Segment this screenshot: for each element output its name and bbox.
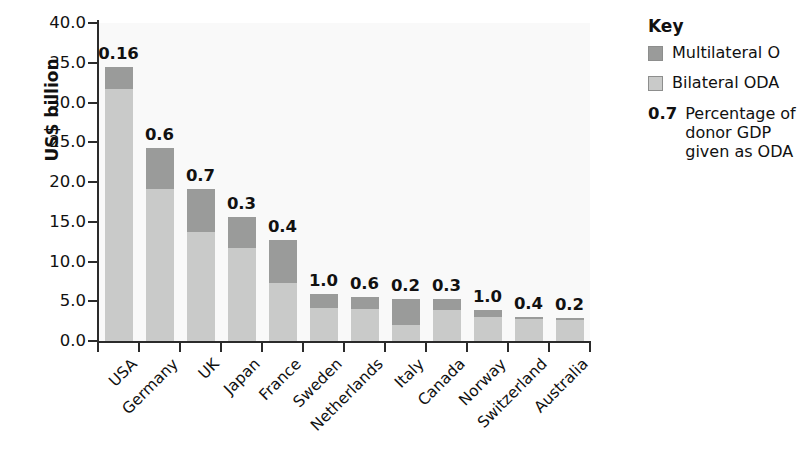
bar-segment-multilateral [105, 67, 133, 89]
y-axis-tick-label: 20.0 [2, 174, 86, 191]
bar-japan [228, 217, 256, 341]
legend-note-text: Percentage of donor GDP given as ODA [685, 104, 796, 162]
y-axis-tick-label: 30.0 [2, 95, 86, 112]
y-axis-tick-label: 35.0 [2, 55, 86, 72]
legend-title: Key [648, 18, 800, 35]
x-axis-label-text: Italy [391, 355, 428, 392]
legend-label-multilateral: Multilateral O [672, 44, 780, 63]
legend-note-line-2: donor GDP [685, 123, 771, 142]
y-axis-tick [88, 22, 98, 24]
x-axis-label-text: USA [105, 355, 140, 390]
bar-segment-bilateral [228, 248, 256, 341]
bar-segment-multilateral [351, 297, 379, 309]
y-axis-tick-label: 40.0 [2, 15, 86, 32]
y-axis-tick-label: 5.0 [2, 293, 86, 310]
y-axis-tick [88, 102, 98, 104]
y-axis-tick-label: 0.0 [2, 333, 86, 350]
legend-note-number: 0.7 [648, 104, 677, 123]
y-axis-tick-labels: 40.035.030.025.020.015.010.05.00.0 [0, 0, 86, 463]
legend-item-bilateral: Bilateral ODA [648, 74, 800, 93]
y-axis-tick-label: 10.0 [2, 254, 86, 271]
x-axis-tick [97, 343, 99, 352]
y-axis-tick [88, 181, 98, 183]
bar-value-label: 0.4 [251, 219, 315, 236]
y-axis-tick [88, 340, 98, 342]
y-axis-tick-label: 25.0 [2, 134, 86, 151]
legend-label-bilateral: Bilateral ODA [672, 74, 779, 93]
bar-usa [105, 67, 133, 341]
y-axis-tick [88, 221, 98, 223]
legend-item-multilateral: Multilateral O [648, 44, 800, 63]
chart-figure: US$ billion 40.035.030.025.020.015.010.0… [0, 0, 800, 463]
bar-value-label: 0.6 [128, 127, 192, 144]
y-axis-tick [88, 62, 98, 64]
x-axis-label-uk: UK [210, 340, 238, 368]
y-axis-tick [88, 300, 98, 302]
bar-value-label: 0.3 [210, 196, 274, 213]
y-axis-tick [88, 261, 98, 263]
legend: Key Multilateral O Bilateral ODA 0.7 Per… [648, 18, 800, 172]
y-axis-tick-label: 15.0 [2, 214, 86, 231]
x-axis-label-text: UK [194, 355, 222, 383]
legend-item-percentage-note: 0.7 Percentage of donor GDP given as ODA [648, 104, 800, 162]
bar-value-label: 0.7 [169, 168, 233, 185]
bar-segment-multilateral [310, 294, 338, 308]
legend-note-line-3: given as ODA [685, 142, 793, 161]
y-axis-tick [88, 141, 98, 143]
bar-value-label: 0.16 [87, 46, 151, 63]
bar-segment-bilateral [146, 189, 174, 341]
legend-note-line-1: Percentage of [685, 104, 796, 123]
legend-swatch-bilateral-icon [648, 76, 663, 91]
legend-swatch-multilateral-icon [648, 46, 663, 61]
